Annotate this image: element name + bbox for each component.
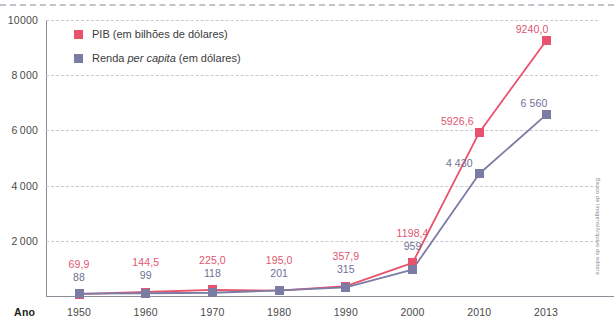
legend-label: PIB (em bilhões de dólares) [92, 28, 228, 40]
data-point-marker [341, 283, 350, 292]
data-label-renda: 959 [404, 240, 422, 252]
chart-legend: PIB (em bilhões de dólares)Renda per cap… [74, 24, 241, 72]
legend-item[interactable]: PIB (em bilhões de dólares) [74, 24, 241, 44]
data-label-renda: 88 [73, 271, 85, 283]
data-point-marker [408, 265, 417, 274]
image-credit: Banco de imagens/Arquivo da editora [595, 178, 601, 275]
data-label-pib: 9240,0 [516, 23, 549, 35]
data-label-renda: 201 [270, 267, 288, 279]
data-label-pib: 144,5 [132, 256, 159, 268]
data-label-pib: 1198,4 [397, 227, 429, 239]
top-divider [0, 4, 614, 6]
legend-swatch-icon [74, 30, 83, 39]
x-axis-title: Ano [14, 306, 35, 318]
data-label-renda: 118 [204, 267, 221, 279]
data-label-pib: 225,0 [199, 254, 226, 266]
data-label-pib: 5926,6 [441, 115, 474, 127]
data-label-renda: 99 [140, 269, 152, 281]
x-tick-label: 1990 [334, 306, 358, 318]
x-tick-label: 2010 [467, 306, 491, 318]
chart-figure: Ano 2 0004 0006 0008 00010000 1950196019… [0, 0, 614, 325]
data-label-pib: 357,9 [332, 250, 359, 262]
x-tick-label: 2013 [534, 306, 558, 318]
data-label-renda: 6 560 [521, 97, 548, 109]
y-tick-label: 2 000 [0, 235, 38, 247]
x-tick-label: 1980 [267, 306, 291, 318]
data-label-pib: 69,9 [69, 258, 90, 270]
y-tick-label: 6 000 [0, 124, 38, 136]
legend-label: Renda per capita (em dólares) [92, 52, 241, 64]
data-point-marker [275, 286, 284, 295]
data-point-marker [208, 288, 217, 297]
y-tick-label: 10000 [0, 14, 38, 26]
data-point-marker [475, 128, 484, 137]
x-axis-line [46, 296, 614, 297]
data-point-marker [542, 110, 551, 119]
x-tick-label: 1950 [67, 306, 91, 318]
data-point-marker [475, 169, 484, 178]
legend-item[interactable]: Renda per capita (em dólares) [74, 48, 241, 68]
data-point-marker [75, 289, 84, 298]
data-label-renda: 315 [337, 263, 355, 275]
data-label-pib: 195,0 [266, 254, 293, 266]
data-point-marker [542, 36, 551, 45]
y-tick-label: 4 000 [0, 180, 38, 192]
x-tick-label: 2000 [400, 306, 424, 318]
y-tick-label: 8 000 [0, 69, 38, 81]
x-tick-label: 1970 [200, 306, 224, 318]
data-label-renda: 4 430 [446, 157, 473, 169]
data-point-marker [141, 289, 150, 298]
legend-swatch-icon [74, 54, 83, 63]
x-tick-label: 1960 [134, 306, 158, 318]
